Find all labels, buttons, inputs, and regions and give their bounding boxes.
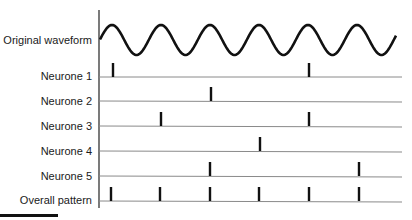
spike-mark [210,87,212,101]
row-label: Overall pattern [20,194,92,206]
original-waveform [100,25,396,55]
row-label: Neurone 5 [41,170,92,182]
spike-mark [112,63,114,77]
spike-mark [308,187,310,201]
spike-mark [358,162,360,176]
spike-mark [159,187,161,201]
volley-diagram: Original waveform Neurone 1 Neurone 2 Ne… [0,0,412,220]
neurone-row-4: Neurone 4 [41,137,402,157]
neurone-row-5: Neurone 5 [41,162,402,182]
row-label: Neurone 4 [41,145,92,157]
spike-mark [209,187,211,201]
row-label: Neurone 1 [41,70,92,82]
scale-bar [0,214,58,217]
baseline [99,101,402,102]
neurone-row-3: Neurone 3 [41,112,402,132]
baseline [99,151,402,152]
baseline [99,176,402,177]
overall-pattern-row: Overall pattern [20,187,402,206]
spike-mark [358,187,360,201]
row-label: Neurone 3 [41,120,92,132]
neurone-row-2: Neurone 2 [41,87,402,107]
neurone-row-1: Neurone 1 [41,63,402,82]
spike-mark [110,187,112,201]
spike-mark [160,112,162,126]
spike-mark [209,162,211,176]
spike-mark [259,137,261,151]
spike-mark [308,63,310,77]
baseline [99,201,402,202]
row-label: Neurone 2 [41,95,92,107]
spike-mark [258,187,260,201]
row-label-waveform: Original waveform [3,34,92,46]
baseline [99,126,402,127]
spike-mark [308,112,310,126]
